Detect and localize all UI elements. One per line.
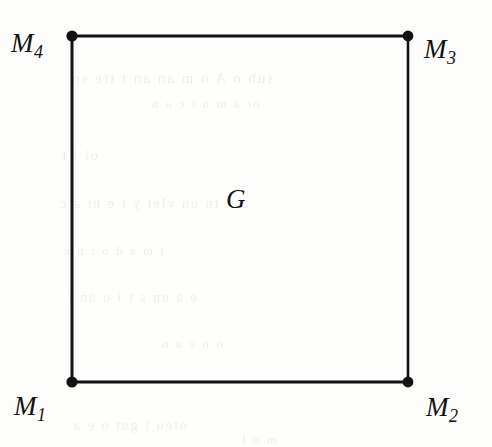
vertex-label-m3-subscript: 3 — [447, 48, 456, 68]
vertex-label-m1-base: M — [14, 391, 37, 421]
vertex-dot-m1 — [66, 376, 77, 387]
vertex-label-m1-subscript: 1 — [37, 405, 46, 425]
vertex-label-m4: M4 — [11, 30, 43, 57]
vertex-dot-m4 — [66, 30, 77, 41]
vertex-label-m4-subscript: 4 — [34, 42, 43, 62]
vertex-label-m4-base: M — [11, 28, 34, 58]
vertex-label-m2: M2 — [426, 394, 458, 421]
square-diagram — [0, 0, 492, 447]
vertex-label-m2-subscript: 2 — [449, 406, 458, 426]
vertex-dot-m2 — [403, 377, 414, 388]
vertex-label-m3-base: M — [424, 34, 447, 64]
vertex-label-m2-base: M — [426, 392, 449, 422]
vertex-label-m3: M3 — [424, 36, 456, 63]
figure-container: sub o A o m an an t tte soor a m u t c a… — [0, 0, 492, 447]
vertex-label-m1: M1 — [14, 393, 46, 420]
region-label-g: G — [226, 186, 246, 213]
vertex-dot-m3 — [403, 31, 414, 42]
